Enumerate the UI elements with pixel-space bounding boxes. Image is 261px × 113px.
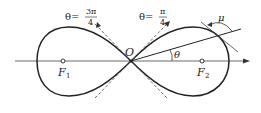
theta-3pi4-numerator: 3π (86, 7, 96, 16)
origin-label: O (125, 46, 134, 59)
lemniscate-diagram: O F 1 F 2 θ μ θ= 3π 4 θ= π 4 (0, 0, 261, 113)
theta-label: θ (174, 49, 180, 60)
mu-label: μ (218, 12, 225, 23)
theta-3pi4-denominator: 4 (88, 18, 93, 27)
axis-arrow-icon (243, 59, 250, 64)
mu-arrow-icon (207, 22, 212, 27)
origin-point (130, 60, 133, 63)
theta-pi4-denominator: 4 (160, 18, 165, 27)
theta-pi4-prefix: θ= (139, 11, 153, 22)
mu-angle-arc (209, 23, 232, 31)
theta-pi4-numerator: π (160, 7, 165, 16)
f1-label: F (57, 66, 66, 79)
theta-angle-arc (170, 50, 172, 61)
f2-subscript: 2 (205, 72, 209, 80)
f2-label: F (196, 66, 205, 79)
f1-subscript: 1 (66, 72, 70, 80)
focus-f2-point (200, 59, 204, 63)
curve-tangent-line (201, 22, 238, 52)
arrow-3pi4-icon (96, 22, 101, 28)
theta-3pi4-prefix: θ= (65, 11, 79, 22)
focus-f1-point (61, 59, 65, 63)
